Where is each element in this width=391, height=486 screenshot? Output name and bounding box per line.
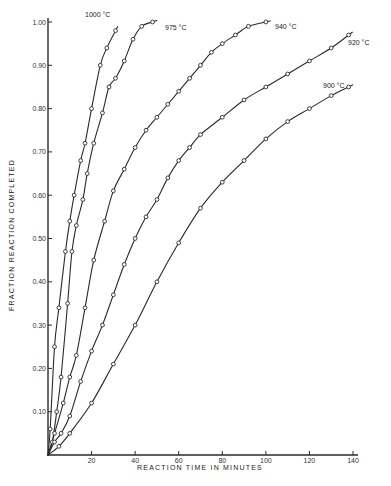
y-tick-label: 0.40 [32, 278, 46, 285]
data-point [114, 29, 118, 33]
data-point [92, 141, 96, 145]
data-point [57, 306, 61, 310]
x-tick-label: 40 [131, 457, 139, 464]
data-point [144, 128, 148, 132]
data-point [57, 444, 61, 448]
data-point [166, 102, 170, 106]
data-point [140, 24, 144, 28]
axes [47, 18, 358, 456]
x-axis-title: REACTION TIME IN MINUTES [137, 464, 263, 471]
data-point [111, 362, 115, 366]
data-point [59, 375, 63, 379]
data-point [151, 20, 155, 24]
data-point [122, 59, 126, 63]
data-point [209, 50, 213, 54]
x-tick-label: 140 [347, 457, 359, 464]
data-point [131, 37, 135, 41]
data-point [68, 219, 72, 223]
data-point [64, 250, 68, 254]
data-point [188, 76, 192, 80]
data-point [242, 159, 246, 163]
y-tick-label: 0.70 [32, 148, 46, 155]
data-point [83, 306, 87, 310]
series-labels: 1000 °C 975 °C 940 °C 920 °C 900 °C [85, 11, 369, 89]
data-point [59, 431, 63, 435]
data-point [199, 63, 203, 67]
data-point [105, 46, 109, 50]
data-point [107, 85, 111, 89]
data-point [286, 120, 290, 124]
data-point [74, 354, 78, 358]
data-point [220, 115, 224, 119]
data-point [122, 167, 126, 171]
data-point [133, 323, 137, 327]
y-tick-label: 0.50 [32, 235, 46, 242]
data-point [83, 141, 87, 145]
curve-940 [48, 21, 271, 455]
x-tick-label: 100 [260, 457, 272, 464]
data-point [220, 42, 224, 46]
data-point [177, 241, 181, 245]
data-point [308, 59, 312, 63]
y-tick-label: 0.10 [32, 408, 46, 415]
data-point [61, 401, 65, 405]
data-point [79, 159, 83, 163]
data-markers [48, 20, 350, 448]
data-point [133, 237, 137, 241]
data-point [53, 440, 57, 444]
data-point [347, 33, 351, 37]
x-tick-label: 80 [218, 457, 226, 464]
y-tick-label: 0.20 [32, 365, 46, 372]
data-point [66, 302, 70, 306]
series-label-1000: 1000 °C [85, 11, 110, 18]
data-point [329, 94, 333, 98]
data-point [264, 85, 268, 89]
data-point [155, 198, 159, 202]
data-point [166, 176, 170, 180]
curves [48, 20, 353, 455]
series-label-920: 920 °C [348, 39, 369, 46]
data-point [122, 263, 126, 267]
data-point [68, 375, 72, 379]
data-point [98, 63, 102, 67]
data-point [111, 293, 115, 297]
y-tick-label: 0.60 [32, 192, 46, 199]
data-point [329, 46, 333, 50]
series-label-975: 975 °C [165, 24, 186, 31]
data-point [90, 107, 94, 111]
data-point [155, 280, 159, 284]
data-point [220, 180, 224, 184]
x-tick-label: 120 [304, 457, 316, 464]
data-point [90, 349, 94, 353]
data-point [53, 431, 57, 435]
y-tick-label: 1.00 [32, 19, 46, 26]
data-point [114, 76, 118, 80]
data-point [101, 111, 105, 115]
data-point [68, 414, 72, 418]
curve-900 [48, 85, 353, 455]
data-point [133, 146, 137, 150]
data-point [81, 198, 85, 202]
data-point [101, 323, 105, 327]
data-point [199, 133, 203, 137]
data-point [308, 107, 312, 111]
y-tick-label: 0.80 [32, 105, 46, 112]
data-point [72, 193, 76, 197]
data-point [155, 115, 159, 119]
data-point [199, 206, 203, 210]
series-label-940: 940 °C [275, 23, 296, 30]
data-point [177, 159, 181, 163]
data-point [92, 258, 96, 262]
data-point [264, 20, 268, 24]
data-point [233, 33, 237, 37]
data-point [79, 379, 83, 383]
y-tick-label: 0.90 [32, 62, 46, 69]
data-point [55, 410, 59, 414]
x-tick-label: 60 [175, 457, 183, 464]
data-point [247, 24, 251, 28]
data-point [70, 250, 74, 254]
curve-975 [48, 20, 157, 455]
data-point [286, 72, 290, 76]
data-point [74, 224, 78, 228]
data-point [85, 172, 89, 176]
